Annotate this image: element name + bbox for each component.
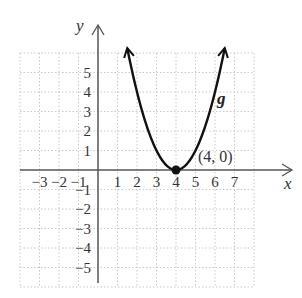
vertex-point [172, 166, 181, 175]
y-tick-label: 4 [84, 84, 92, 100]
x-tick-label: 6 [211, 174, 219, 190]
y-axis-label: y [74, 16, 84, 35]
y-tick-label: 3 [84, 104, 92, 120]
x-tick-label: 4 [172, 174, 180, 190]
x-tick-label: 5 [192, 174, 200, 190]
y-tick-label: −1 [75, 182, 91, 198]
x-tick-label: 1 [114, 174, 122, 190]
y-tick-label: −2 [75, 201, 91, 217]
y-tick-label: −3 [75, 221, 91, 237]
x-axis-label: x [283, 174, 292, 193]
x-tick-label: −3 [32, 174, 48, 190]
y-tick-label: 2 [84, 123, 92, 139]
y-tick-label: 5 [84, 65, 92, 81]
x-tick-label: 2 [133, 174, 141, 190]
x-tick-label: −2 [51, 174, 67, 190]
vertex-label: (4, 0) [198, 148, 233, 166]
function-graph: −3−2−1123456754321−1−2−3−4−5 g(4, 0) x y [0, 0, 302, 298]
x-tick-label: 7 [231, 174, 239, 190]
y-tick-label: −4 [75, 240, 91, 256]
x-tick-label: 3 [153, 174, 161, 190]
y-tick-label: 1 [84, 143, 92, 159]
curve-label: g [216, 89, 226, 108]
y-tick-label: −5 [75, 260, 91, 276]
